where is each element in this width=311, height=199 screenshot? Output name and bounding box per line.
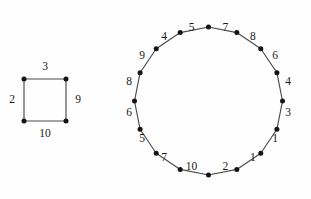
edge-weight-label: 5 <box>139 132 145 144</box>
graph-vertex <box>280 99 285 104</box>
graph-vertex <box>132 99 137 104</box>
cycle-16-graph: 78643112107568945 <box>126 21 291 178</box>
edge-weight-label: 8 <box>250 30 256 42</box>
edge-weight-label: 9 <box>75 93 81 105</box>
graph-vertex <box>154 151 159 156</box>
graph-edge <box>135 101 141 129</box>
graph-vertex <box>206 173 211 178</box>
edge-weight-label: 1 <box>250 151 256 163</box>
figure-root: 39102 78643112107568945 <box>0 0 311 199</box>
graph-edge <box>135 73 141 101</box>
graph-vertex <box>154 46 159 51</box>
cycle-label-group: 78643112107568945 <box>126 21 291 172</box>
cycle-vertex-group <box>132 25 285 178</box>
graph-edge <box>237 33 261 49</box>
graph-edge <box>237 153 261 169</box>
graph-vertex <box>258 151 263 156</box>
graph-edge <box>156 33 180 49</box>
graph-vertex <box>274 70 279 75</box>
graph-vertex <box>234 167 239 172</box>
edge-weight-label: 1 <box>272 132 278 144</box>
edge-weight-label: 5 <box>189 21 195 33</box>
graph-edge <box>277 73 283 101</box>
graph-vertex <box>178 30 183 35</box>
graph-vertex <box>138 70 143 75</box>
edge-weight-label: 3 <box>42 60 48 72</box>
edge-weight-label: 4 <box>285 75 291 87</box>
edge-weight-label: 2 <box>223 160 229 172</box>
graph-edge <box>277 101 283 129</box>
graph-vertex <box>178 167 183 172</box>
graph-vertex <box>64 119 69 124</box>
square-vertex-group <box>22 77 69 124</box>
graph-edge <box>156 153 180 169</box>
edge-weight-label: 10 <box>39 127 51 139</box>
square-graph: 39102 <box>9 60 81 139</box>
edge-weight-label: 10 <box>186 160 198 172</box>
edge-weight-label: 3 <box>285 106 291 118</box>
square-label-group: 39102 <box>9 60 81 139</box>
graph-vertex <box>258 46 263 51</box>
graph-vertex <box>234 30 239 35</box>
square-edge-group <box>24 79 66 121</box>
edge-weight-label: 6 <box>272 49 278 61</box>
edge-weight-label: 6 <box>126 106 132 118</box>
edge-weight-label: 7 <box>223 21 229 33</box>
edge-weight-label: 8 <box>126 75 132 87</box>
graph-vertex <box>22 119 27 124</box>
graph-vertex <box>64 77 69 82</box>
graph-canvas: 39102 78643112107568945 <box>0 0 311 199</box>
graph-vertex <box>22 77 27 82</box>
edge-weight-label: 9 <box>139 49 145 61</box>
edge-weight-label: 2 <box>9 93 15 105</box>
edge-weight-label: 7 <box>161 151 167 163</box>
graph-vertex <box>206 25 211 30</box>
edge-weight-label: 4 <box>161 30 167 42</box>
